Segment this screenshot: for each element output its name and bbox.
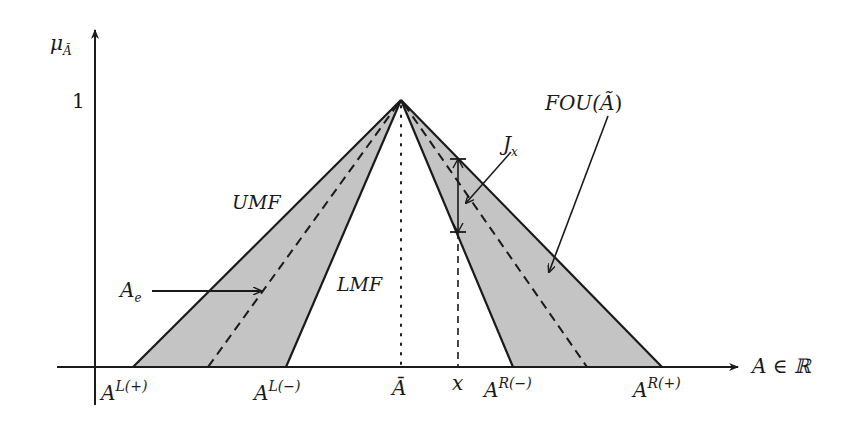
secondary-mf-label-base: J: [503, 132, 511, 156]
fou-label-arg: Ã: [600, 91, 614, 115]
embedded-set-label-sub: e: [134, 291, 141, 305]
fou-label: FOU(Ã): [545, 93, 622, 113]
secondary-mf-label-sub: x: [511, 145, 518, 159]
fou-label-base: FOU(: [545, 91, 600, 115]
tick-a-l-plus-sup: L(+): [115, 378, 147, 394]
tick-a-r-minus-sup: R(−): [498, 375, 531, 391]
fou-pointer-arrow: [549, 116, 608, 272]
lmf-label: LMF: [337, 275, 382, 294]
tick-a-l-minus-base: A: [254, 381, 268, 405]
fou-label-close: ): [614, 91, 622, 115]
x-axis-label-text: A ∈ ℝ: [752, 354, 811, 378]
tick-a-r-plus-sup: R(+): [647, 375, 680, 391]
tick-a-l-minus-sup: L(−): [268, 378, 300, 394]
y-axis-label-mu: μ: [50, 31, 63, 55]
y-tick-one: 1: [72, 91, 85, 111]
tick-a-r-plus: AR(+): [633, 380, 681, 400]
tick-a-r-minus: AR(−): [484, 380, 532, 400]
embedded-set-label: Ae: [120, 280, 142, 300]
x-axis-label: A ∈ ℝ: [752, 356, 811, 376]
y-axis-label-sub: Ã: [63, 44, 72, 58]
diagram-canvas: [0, 0, 859, 431]
tick-a-r-plus-base: A: [633, 378, 647, 402]
tick-a-r-minus-base: A: [484, 378, 498, 402]
tick-a-bar: Ā: [392, 378, 406, 398]
umf-label: UMF: [232, 193, 281, 212]
embedded-set-label-base: A: [120, 278, 134, 302]
secondary-mf-label: Jx: [503, 134, 518, 154]
tick-x: x: [452, 373, 463, 393]
y-axis-label: μÃ: [50, 33, 72, 53]
fuzzy-set-diagram: μÃ 1 A ∈ ℝ UMF LMF FOU(Ã) Ae Jx AL(+) AL…: [0, 0, 859, 431]
tick-a-l-plus: AL(+): [101, 383, 147, 403]
tick-a-l-plus-base: A: [101, 381, 115, 405]
tick-a-l-minus: AL(−): [254, 383, 300, 403]
